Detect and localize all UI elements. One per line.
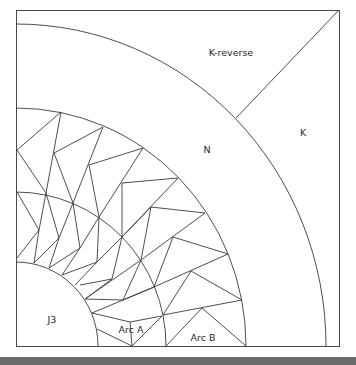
quilt-pattern-diagram: K-reverse K N J3 Arc A Arc B [0, 0, 356, 365]
label-arc-a: Arc A [119, 324, 144, 335]
label-arc-b: Arc B [191, 332, 216, 343]
label-j3: J3 [47, 314, 57, 325]
label-k: K [300, 127, 307, 138]
label-n: N [203, 144, 210, 155]
label-k-reverse: K-reverse [209, 47, 254, 58]
footer-band [0, 357, 356, 365]
